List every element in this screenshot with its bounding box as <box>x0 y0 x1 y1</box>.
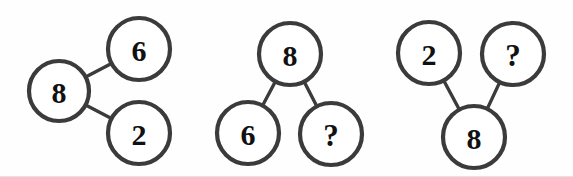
node-label: ? <box>323 118 339 153</box>
left-group-nodes: 862 <box>29 18 170 164</box>
puzzle-canvas: 86286?2?8 <box>0 0 573 177</box>
node-circle-8: 8 <box>29 61 89 121</box>
node-circle-8: 8 <box>443 106 505 168</box>
node-circle-2: 2 <box>108 102 170 164</box>
node-label: 8 <box>283 39 298 72</box>
node-circle-8: 8 <box>259 23 321 85</box>
node-label: 8 <box>467 122 482 155</box>
node-circle-2: 2 <box>398 22 460 84</box>
connector-line <box>85 104 113 119</box>
puzzle-diagram: 86286?2?8 <box>0 0 573 177</box>
connector-line <box>443 79 460 110</box>
right-group-nodes: 2?8 <box>398 22 544 168</box>
node-circle-6: 6 <box>108 18 170 80</box>
connector-line <box>487 81 500 110</box>
node-label: 8 <box>52 76 67 109</box>
node-label: 2 <box>132 118 147 151</box>
connector-line <box>85 63 113 78</box>
node-circle-unknown: ? <box>482 23 544 85</box>
middle-group-nodes: 86? <box>217 23 362 165</box>
nodes-layer: 86286?2?8 <box>29 18 544 168</box>
connector-line <box>262 80 276 106</box>
connector-line <box>304 81 318 108</box>
node-circle-6: 6 <box>217 102 279 164</box>
node-circle-unknown: ? <box>300 103 362 165</box>
node-label: 6 <box>132 34 147 67</box>
node-label: 6 <box>241 118 256 151</box>
node-label: 2 <box>422 38 437 71</box>
node-label: ? <box>505 38 521 73</box>
